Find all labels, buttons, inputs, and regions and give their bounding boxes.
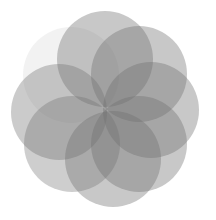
circles-group	[11, 11, 199, 207]
overlapping-circles-graphic	[0, 0, 216, 220]
circle-left	[11, 64, 107, 160]
flower-figure	[0, 0, 216, 220]
